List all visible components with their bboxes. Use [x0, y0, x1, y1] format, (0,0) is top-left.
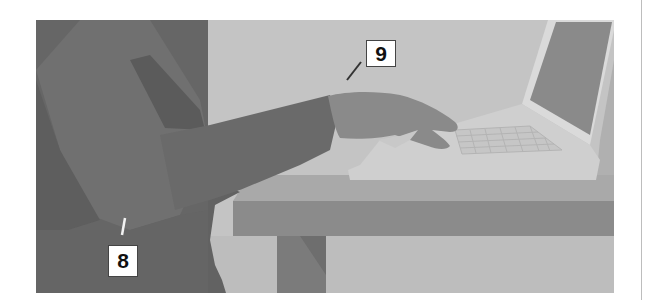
callout-label-8: 8 [108, 245, 138, 277]
table-apron [233, 201, 614, 236]
ergonomics-illustration: 8 9 [0, 0, 647, 302]
callout-label-9: 9 [366, 40, 396, 67]
floor [208, 236, 614, 293]
page-divider [641, 0, 642, 300]
illustration-canvas [0, 0, 647, 302]
